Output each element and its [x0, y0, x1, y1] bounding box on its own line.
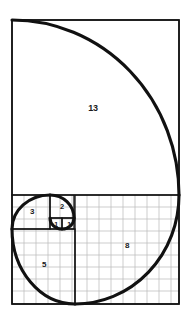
square-outlines [12, 20, 179, 304]
label-square-8: 8 [125, 242, 129, 250]
label-square-5: 5 [42, 261, 46, 269]
fibonacci-spiral-svg [0, 0, 191, 319]
fibonacci-spiral-curve [12, 20, 179, 304]
outer-rectangle-border [12, 20, 179, 304]
fibonacci-spiral-figure: 13 8 5 3 2 1 1 [0, 0, 191, 319]
label-square-3: 3 [30, 208, 34, 216]
label-square-1a: 1 [54, 221, 58, 228]
label-square-1b: 1 [67, 221, 71, 228]
label-square-13: 13 [88, 104, 98, 113]
label-square-2: 2 [60, 203, 64, 211]
